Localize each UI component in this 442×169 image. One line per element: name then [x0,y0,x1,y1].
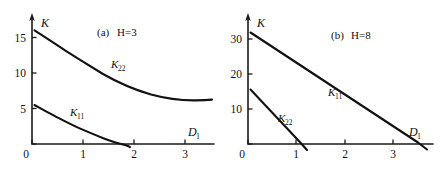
chart-panel-b: 0 10 20 30 1 2 3 K D 1 (b) H =8 [221,0,442,169]
x-axis-label-b-subscript: 1 [417,132,421,141]
x-tick-label-a-2: 2 [131,148,137,160]
panel-title-b-prefix: (b) [331,29,344,42]
y-tick-label-a-0: 0 [23,148,29,160]
panel-title-b: (b) H =8 [331,29,371,42]
series-label-b-k11: K 11 [327,86,342,101]
series-label-a-k22-subscript: 22 [118,64,126,73]
series-line-b-k11 [251,33,428,150]
y-tick-label-b-20: 20 [231,68,243,80]
panel-title-a-suffix: =3 [125,26,137,38]
series-label-b-k11-subscript: 11 [335,92,342,101]
x-tick-label-a-3: 3 [182,148,188,160]
series-label-a-k22: K 22 [110,58,126,73]
panel-title-b-suffix: =8 [359,29,371,41]
x-axis-label-a-subscript: 1 [196,132,200,141]
y-axis-label-a: K [40,16,50,30]
x-tick-label-a-1: 1 [80,148,86,160]
y-tick-label-a-10: 10 [15,67,27,79]
x-tick-label-b-1: 1 [293,148,299,160]
x-tick-label-b-2: 2 [342,148,348,160]
panel-title-b-symbol: H [351,29,359,41]
series-label-a-k11: K 11 [69,106,84,121]
y-tick-label-a-15: 15 [15,32,27,44]
panel-title-a-symbol: H [117,26,125,38]
y-tick-label-b-10: 10 [231,103,243,115]
x-tick-label-b-3: 3 [390,148,396,160]
y-tick-label-b-30: 30 [231,33,243,45]
chart-panel-a: 0 5 10 15 1 2 3 K D 1 (a) H =3 [0,0,221,169]
panel-title-a-prefix: (a) [97,26,110,39]
y-axis-label-b: K [256,16,266,30]
series-label-a-k11-subscript: 11 [77,112,84,121]
y-tick-label-a-5: 5 [20,103,26,115]
x-axis-label-a: D 1 [187,125,200,141]
y-axis-a [29,13,35,144]
series-label-b-k22: K 22 [277,112,293,127]
figure-two-panel-plot: 0 5 10 15 1 2 3 K D 1 (a) H =3 [0,0,442,169]
y-tick-label-b-0: 0 [239,148,245,160]
x-axis-label-b: D 1 [408,125,421,141]
series-label-b-k22-subscript: 22 [285,118,293,127]
panel-title-a: (a) H =3 [97,26,137,39]
